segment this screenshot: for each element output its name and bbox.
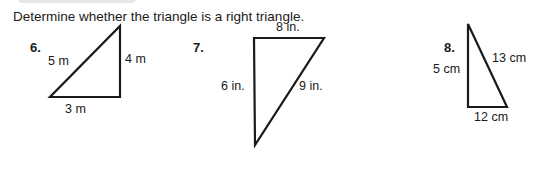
side-label-6-horizontal: 3 m xyxy=(65,102,86,116)
side-label-7-diagonal: 9 in. xyxy=(299,79,323,93)
problem-number-6: 6. xyxy=(30,40,41,55)
problem-number-8: 8. xyxy=(444,40,455,55)
side-label-8-bottom: 12 cm xyxy=(474,110,508,124)
side-label-7-left: 6 in. xyxy=(221,79,245,93)
triangles-figure xyxy=(0,0,548,172)
side-label-8-diagonal: 13 cm xyxy=(492,51,526,65)
side-label-8-left: 5 cm xyxy=(433,62,460,76)
triangle-8 xyxy=(468,24,507,107)
side-label-7-top: 8 in. xyxy=(276,20,300,34)
side-label-6-hypotenuse: 5 m xyxy=(48,54,69,68)
side-label-6-vertical: 4 m xyxy=(125,52,146,66)
problem-number-7: 7. xyxy=(193,40,204,55)
